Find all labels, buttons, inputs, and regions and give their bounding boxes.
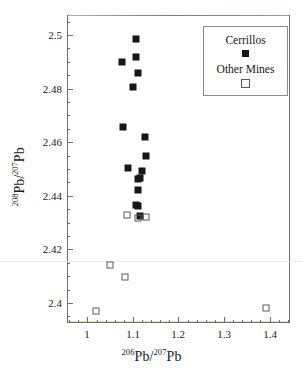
data-point-other-mines <box>106 261 113 268</box>
x-axis-minor-tick <box>160 320 161 323</box>
data-point-other-mines <box>263 305 270 312</box>
y-axis-minor-tick <box>67 22 70 23</box>
y-axis-minor-tick <box>67 236 70 237</box>
y-axis-minor-tick <box>67 290 70 291</box>
y-axis-minor-tick <box>67 169 70 170</box>
data-point-cerrillos <box>142 133 149 140</box>
y-axis-minor-tick <box>67 276 70 277</box>
y-axis-tick-label: 2.44 <box>22 190 62 202</box>
data-point-other-mines <box>122 273 129 280</box>
y-axis-title-sup-208: 208 <box>10 194 20 207</box>
data-point-cerrillos <box>143 152 150 159</box>
x-axis-title: 206Pb/207Pb <box>0 347 303 365</box>
y-axis-tick <box>67 142 73 143</box>
x-axis-minor-tick <box>142 320 143 323</box>
x-axis-minor-tick <box>188 320 189 323</box>
x-axis-minor-tick <box>279 320 280 323</box>
y-axis-minor-tick <box>67 48 70 49</box>
y-axis-minor-tick <box>67 156 70 157</box>
y-axis-tick-label: 2.46 <box>22 136 62 148</box>
y-axis-title: 208Pb/207Pb <box>10 112 28 242</box>
x-axis-minor-tick <box>106 320 107 323</box>
y-axis-title-mid: Pb/ <box>12 175 27 194</box>
y-axis-minor-tick <box>67 316 70 317</box>
x-axis-tick-label: 1 <box>84 328 90 340</box>
x-axis-minor-tick <box>169 320 170 323</box>
x-axis-tick <box>224 317 225 323</box>
x-axis-title-sup-207: 207 <box>153 347 166 357</box>
y-axis-minor-tick <box>67 62 70 63</box>
y-axis-tick-label: 2.4 <box>22 297 62 309</box>
x-axis-minor-tick <box>233 320 234 323</box>
x-axis-tick <box>87 317 88 323</box>
y-axis-minor-tick <box>67 209 70 210</box>
y-axis-minor-tick <box>67 129 70 130</box>
x-axis-minor-tick <box>197 320 198 323</box>
y-axis-tick <box>67 35 73 36</box>
x-axis-minor-tick <box>260 320 261 323</box>
y-axis-minor-tick <box>67 75 70 76</box>
data-point-cerrillos <box>135 203 142 210</box>
y-axis-tick <box>67 249 73 250</box>
x-axis-minor-tick <box>251 320 252 323</box>
x-axis-minor-tick <box>151 320 152 323</box>
x-axis-minor-tick <box>78 320 79 323</box>
x-axis-minor-tick <box>288 320 289 323</box>
y-axis-minor-tick <box>67 102 70 103</box>
x-axis-minor-tick <box>124 320 125 323</box>
y-axis-tick <box>67 196 73 197</box>
x-axis-tick <box>270 317 271 323</box>
data-point-cerrillos <box>129 84 136 91</box>
y-axis-tick <box>67 303 73 304</box>
data-point-cerrillos <box>133 53 140 60</box>
x-axis-tick-label: 1.1 <box>126 328 140 340</box>
data-point-cerrillos <box>125 165 132 172</box>
data-point-other-mines <box>142 214 149 221</box>
x-axis-title-mid: Pb/ <box>135 349 154 364</box>
data-point-other-mines <box>93 308 100 315</box>
y-axis-tick-label: 2.48 <box>22 83 62 95</box>
y-axis-title-sup-207: 207 <box>10 162 20 175</box>
y-axis-tick <box>67 89 73 90</box>
y-axis-minor-tick <box>67 182 70 183</box>
x-axis-minor-tick <box>97 320 98 323</box>
x-axis-minor-tick <box>242 320 243 323</box>
x-axis-minor-tick <box>115 320 116 323</box>
y-axis-tick-label: 2.42 <box>22 243 62 255</box>
x-axis-minor-tick <box>206 320 207 323</box>
chart-legend: Cerrillos Other Mines <box>203 26 288 96</box>
x-axis-tick-label: 1.4 <box>263 328 277 340</box>
x-axis-tick <box>178 317 179 323</box>
x-axis-minor-tick <box>215 320 216 323</box>
data-point-other-mines <box>123 211 130 218</box>
data-point-cerrillos <box>137 174 144 181</box>
legend-swatch-filled-square-icon <box>242 50 249 57</box>
x-axis-tick-label: 1.2 <box>171 328 185 340</box>
data-point-cerrillos <box>119 124 126 131</box>
x-axis-title-sup-206: 206 <box>121 347 134 357</box>
y-axis-tick-label: 2.5 <box>22 29 62 41</box>
legend-label-cerrillos: Cerrillos <box>225 34 265 47</box>
data-point-cerrillos <box>134 69 141 76</box>
legend-label-other-mines: Other Mines <box>217 63 275 76</box>
x-axis-tick-label: 1.3 <box>217 328 231 340</box>
data-point-cerrillos <box>133 36 140 43</box>
data-point-cerrillos <box>119 58 126 65</box>
x-axis-minor-tick <box>69 320 70 323</box>
scatter-plot-figure: 11.11.21.31.42.52.482.462.442.422.4 Cerr… <box>0 0 303 380</box>
x-axis-tick <box>133 317 134 323</box>
legend-swatch-open-square-icon <box>241 79 250 88</box>
data-point-cerrillos <box>134 187 141 194</box>
y-axis-title-end: Pb <box>12 147 27 162</box>
y-axis-minor-tick <box>67 115 70 116</box>
data-point-other-mines <box>134 214 141 221</box>
x-axis-title-end: Pb <box>167 349 182 364</box>
y-axis-minor-tick <box>67 263 70 264</box>
y-axis-minor-tick <box>67 223 70 224</box>
